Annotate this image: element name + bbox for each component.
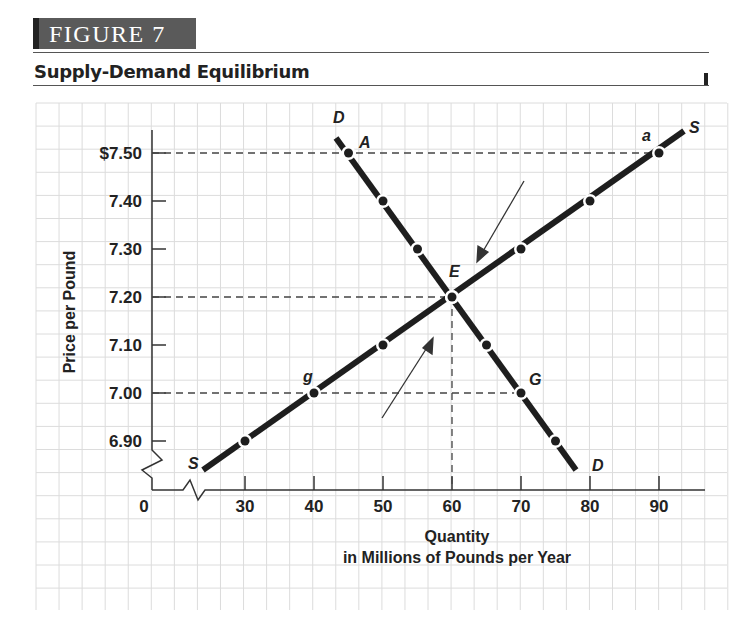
supply-demand-chart: $7.507.407.307.207.107.006.90 0304050607… [0, 0, 748, 624]
data-point [551, 437, 560, 446]
data-point [413, 245, 422, 254]
y-tick-label: 7.20 [109, 288, 142, 307]
y-tick-label: 7.30 [109, 240, 142, 259]
x-axis-label-line1: Quantity [425, 528, 490, 545]
x-axis-label-line2: in Millions of Pounds per Year [343, 549, 571, 566]
data-point [344, 149, 353, 158]
label-A: A [358, 134, 371, 151]
grid [36, 103, 728, 610]
x-tick-label: 50 [374, 497, 393, 516]
x-tick-label: 70 [512, 497, 531, 516]
data-point [379, 197, 388, 206]
x-tick-label: 40 [305, 497, 324, 516]
label-a: a [642, 127, 651, 144]
x-tick-label: 90 [650, 497, 669, 516]
y-tick-label: 7.40 [109, 192, 142, 211]
label-S-start: S [188, 455, 199, 472]
label-S-end: S [689, 119, 700, 136]
data-point [517, 389, 526, 398]
x-tick-label: 80 [581, 497, 600, 516]
label-E: E [449, 263, 461, 280]
y-axis [142, 130, 162, 490]
data-point [310, 389, 319, 398]
y-axis-label: Price per Pound [61, 251, 78, 374]
data-point [448, 293, 457, 302]
data-point [482, 341, 491, 350]
label-g: g [302, 368, 313, 385]
x-tick-label: 0 [139, 497, 148, 516]
supply-curve [203, 131, 684, 470]
y-tick-label: 7.00 [109, 384, 142, 403]
y-tick-label: 6.90 [109, 432, 142, 451]
label-D-start: D [333, 109, 345, 126]
data-point [655, 149, 664, 158]
x-tick-label: 60 [443, 497, 462, 516]
y-tick-label: 7.10 [109, 336, 142, 355]
data-point [379, 341, 388, 350]
label-G: G [529, 371, 541, 388]
arrow-down-left-icon [482, 181, 524, 253]
demand-curve [336, 138, 576, 470]
data-point [241, 437, 250, 446]
arrowhead-icon [477, 246, 488, 262]
data-point [517, 245, 526, 254]
y-tick-label: $7.50 [99, 144, 142, 163]
label-D-end: D [592, 457, 604, 474]
series-lines [203, 131, 684, 470]
data-point [586, 197, 595, 206]
x-tick-label: 30 [236, 497, 255, 516]
